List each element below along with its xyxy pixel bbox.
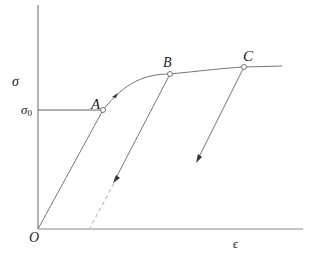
point-C-label: C (243, 48, 254, 64)
dashed-line-B (90, 183, 114, 228)
elastic-line-OA (38, 110, 103, 229)
y-axis-label: σ (12, 74, 20, 89)
point-C-marker (242, 65, 247, 70)
hardening-curve (103, 66, 282, 110)
arrow-icon (112, 93, 118, 98)
origin-label: O (29, 230, 39, 245)
point-B-label: B (163, 55, 172, 70)
arrow-icon (113, 175, 120, 183)
arrow-icon (196, 154, 202, 163)
stress-strain-diagram: σ σ0 A B C O ϵ (0, 0, 311, 255)
yield-stress-label: σ0 (21, 102, 32, 118)
point-B-marker (168, 72, 173, 77)
point-A-marker (101, 108, 106, 113)
x-axis-label: ϵ (233, 237, 239, 251)
point-A-label: A (90, 96, 101, 112)
unloading-line-C (199, 67, 244, 157)
unloading-line-B (117, 74, 170, 176)
